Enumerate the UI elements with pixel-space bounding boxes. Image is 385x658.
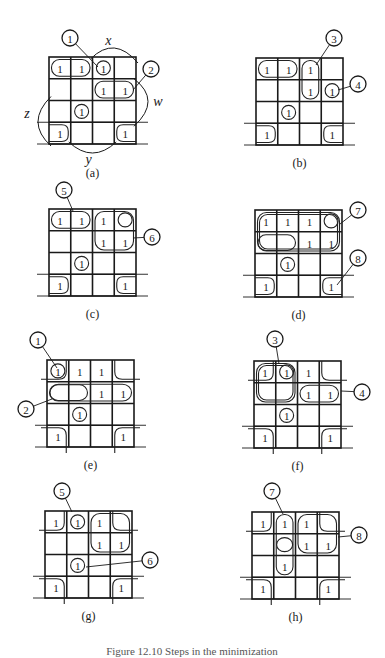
cell-value-one: 1: [118, 582, 124, 594]
kmap-grid: [37, 57, 148, 144]
cell-value-one: 1: [101, 63, 107, 75]
corner-wrap-loop: [39, 579, 64, 604]
empty-prime-circle: [118, 213, 132, 227]
cell-value-one: 1: [75, 560, 81, 572]
corner-wrap-loop: [320, 580, 345, 605]
callout-number: 7: [269, 486, 275, 498]
cell-value-one: 1: [101, 215, 107, 227]
figure-caption: Figure 12.10 Steps in the minimization: [106, 645, 278, 657]
cell-value-one: 1: [262, 367, 268, 379]
panel-label: (d): [292, 308, 306, 322]
callout-leader-line: [42, 347, 57, 368]
callout-leader-line: [341, 391, 354, 392]
callout-number: 8: [356, 530, 362, 542]
kmap-panels: 1111111112xwzy(a)1111111134(b)1111111156…: [18, 30, 370, 624]
cell-value-one: 1: [79, 258, 85, 270]
cell-value-one: 1: [77, 366, 83, 378]
cell-value-one: 1: [79, 215, 85, 227]
callout-leader-line: [65, 498, 72, 512]
callout-number: 3: [272, 334, 278, 346]
corner-wrap-loop: [113, 579, 138, 604]
callout-number: 8: [355, 253, 361, 265]
cell-value-one: 1: [99, 388, 105, 400]
cell-value-one: 1: [55, 366, 61, 378]
cell-value-one: 1: [57, 63, 63, 75]
cell-value-one: 1: [57, 280, 63, 292]
cell-value-one: 1: [264, 129, 270, 141]
cell-value-one: 1: [306, 389, 312, 401]
corner-wrap-loop: [246, 512, 271, 531]
cell-value-one: 1: [282, 561, 288, 573]
callout-number: 5: [61, 185, 67, 197]
callout-leader-line: [338, 86, 350, 90]
callout-number: 1: [67, 33, 73, 45]
cell-value-one: 1: [264, 64, 270, 76]
cell-value-one: 1: [328, 281, 334, 293]
cell-value-one: 1: [79, 106, 85, 118]
cell-value-one: 1: [57, 215, 63, 227]
kmap-grid: [33, 511, 144, 598]
cell-value-one: 1: [260, 583, 266, 595]
cell-value-one: 1: [285, 259, 291, 271]
cell-value-one: 1: [79, 63, 85, 75]
kmap-panel-d: 1111111178(d): [243, 202, 366, 322]
cell-value-one: 1: [327, 389, 333, 401]
kmap-panel-a: 1111111112xwzy(a): [23, 30, 163, 180]
panel-label: (h): [289, 610, 303, 624]
callout-leader-line: [338, 536, 351, 537]
callout-number: 7: [355, 205, 361, 217]
corner-wrap-loop: [115, 360, 140, 379]
cell-value-one: 1: [286, 64, 292, 76]
panel-label: (c): [86, 307, 99, 321]
callout-number: 3: [331, 33, 337, 45]
cell-value-one: 1: [325, 583, 331, 595]
cell-value-one: 1: [304, 518, 310, 530]
kmap-panel-f: 1111111134(f): [242, 331, 370, 473]
cell-value-one: 1: [118, 539, 124, 551]
cell-value-one: 1: [101, 85, 107, 97]
karnaugh-map-figure: 1111111112xwzy(a)1111111134(b)1111111156…: [0, 0, 385, 658]
callout-number: 6: [147, 555, 153, 567]
variable-label-x: x: [104, 33, 112, 48]
cell-value-one: 1: [282, 518, 288, 530]
corner-wrap-loop: [322, 361, 347, 380]
callout-number: 6: [149, 232, 155, 244]
variable-label-w: w: [153, 94, 163, 109]
kmap-grid: [240, 512, 351, 599]
cell-value-one: 1: [260, 518, 266, 530]
kmap-panel-e: 1111111112(e): [18, 332, 146, 472]
cell-value-one: 1: [122, 280, 128, 292]
cell-value-one: 1: [101, 237, 107, 249]
callout-number: 4: [359, 387, 365, 399]
cell-value-one: 1: [329, 86, 335, 98]
cell-value-one: 1: [307, 238, 313, 250]
cell-value-one: 1: [97, 539, 103, 551]
cell-value-one: 1: [122, 128, 128, 140]
callout-number: 4: [355, 79, 361, 91]
callout-leader-line: [316, 45, 330, 65]
callout-number: 5: [59, 486, 65, 498]
variable-label-z: z: [23, 106, 30, 121]
cell-value-one: 1: [120, 388, 126, 400]
cell-value-one: 1: [55, 431, 61, 443]
cell-value-one: 1: [308, 86, 314, 98]
cell-value-one: 1: [286, 107, 292, 119]
kmap-panel-h: 1111111178(h): [240, 483, 367, 624]
kmap-panel-b: 1111111134(b): [244, 30, 366, 170]
corner-wrap-loop: [115, 428, 140, 453]
cell-value-one: 1: [99, 366, 105, 378]
callout-leader-line: [33, 399, 52, 406]
variable-label-y: y: [83, 152, 92, 167]
cell-value-one: 1: [307, 216, 313, 228]
cell-value-one: 1: [284, 410, 290, 422]
cell-value-one: 1: [306, 367, 312, 379]
panel-label: (e): [84, 458, 97, 472]
callout-leader-line: [133, 237, 144, 238]
cell-value-one: 1: [53, 582, 59, 594]
cell-value-one: 1: [122, 237, 128, 249]
corner-wrap-loop: [322, 429, 347, 454]
callout-leader-line: [133, 75, 146, 90]
kmap-panel-g: 1111111156(g): [33, 483, 158, 623]
callout-number: 1: [35, 335, 41, 347]
cell-value-one: 1: [327, 432, 333, 444]
